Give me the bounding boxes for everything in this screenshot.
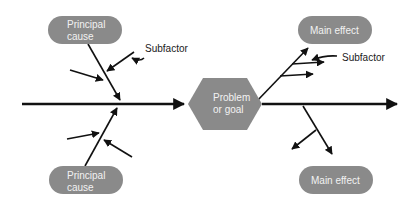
principal-cause-box-top: Principal cause bbox=[48, 16, 122, 44]
cause-bone-bottom bbox=[67, 108, 132, 166]
subfactor-pointer-right bbox=[312, 56, 337, 60]
subfactor-label-left: Subfactor bbox=[145, 43, 188, 54]
effect-bottom-label: Main effect bbox=[311, 175, 360, 186]
problem-hexagon: Problem or goal bbox=[188, 78, 262, 130]
cause-bone-top bbox=[70, 44, 144, 100]
problem-label-line2: or goal bbox=[213, 104, 244, 115]
subfactor-label-right: Subfactor bbox=[342, 52, 385, 63]
effect-bone-top bbox=[256, 48, 337, 102]
cause-top-line2: cause bbox=[67, 31, 94, 42]
cause-top-line1: Principal bbox=[67, 19, 105, 30]
subfactor-pointer-left bbox=[132, 58, 144, 60]
main-effect-box-bottom: Main effect bbox=[299, 166, 373, 194]
problem-label-line1: Problem bbox=[213, 92, 250, 103]
effect-bone-bottom bbox=[292, 106, 332, 154]
cause-bottom-line1: Principal bbox=[67, 170, 105, 181]
main-effect-box-top: Main effect bbox=[298, 16, 372, 44]
fishbone-diagram: Problem or goal Principal cause Principa… bbox=[0, 0, 415, 202]
cause-bottom-line2: cause bbox=[67, 182, 94, 193]
effect-top-label: Main effect bbox=[310, 25, 359, 36]
principal-cause-box-bottom: Principal cause bbox=[49, 166, 123, 194]
